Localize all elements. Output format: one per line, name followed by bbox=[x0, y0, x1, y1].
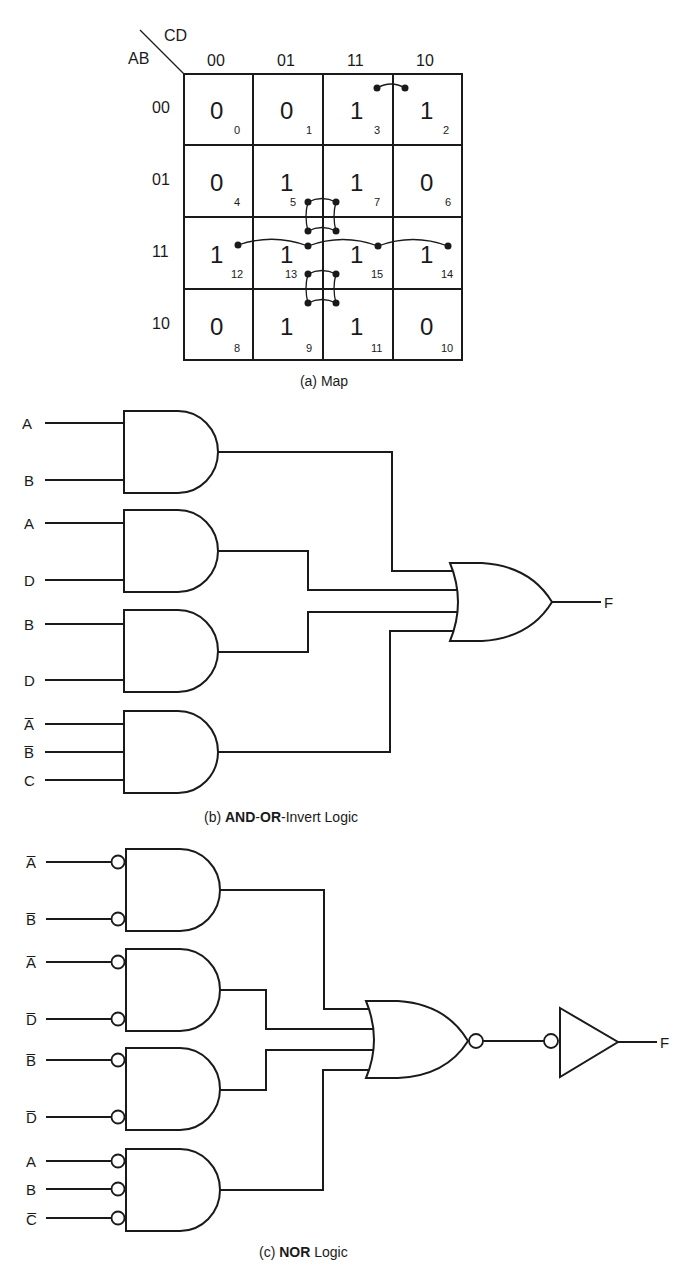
map-caption: (a) Map bbox=[300, 373, 348, 389]
input-label: C̅ bbox=[26, 1211, 37, 1228]
minterm-index: 9 bbox=[306, 342, 312, 354]
input-label: A bbox=[22, 415, 32, 432]
cell-value: 1 bbox=[420, 97, 433, 124]
inversion-bubble bbox=[112, 1054, 125, 1067]
row-header: 01 bbox=[152, 171, 170, 188]
input-label: B̅ bbox=[26, 1052, 36, 1069]
nand-style-gate-2: A̅ D̅ bbox=[26, 949, 220, 1031]
inversion-bubble bbox=[112, 1212, 125, 1225]
karnaugh-map: CD AB 00 01 11 10 00 01 11 10 0 0 0 1 1 … bbox=[128, 27, 462, 389]
nand-style-gate-1: A̅ B̅ bbox=[26, 849, 220, 931]
col-header: 10 bbox=[416, 52, 434, 69]
input-label: D bbox=[24, 672, 35, 689]
and-gate-4: A̅ B̅ C bbox=[24, 711, 218, 793]
and-or-circuit: A B A D B D A̅ B̅ C bbox=[22, 411, 613, 825]
output-label: F bbox=[604, 594, 613, 611]
and-or-caption: (b) AND-OR-Invert Logic bbox=[204, 809, 358, 825]
minterm-index: 12 bbox=[231, 268, 243, 280]
inversion-bubble bbox=[112, 1183, 125, 1196]
cell-value: 0 bbox=[280, 97, 293, 124]
input-label: B bbox=[24, 472, 34, 489]
inverter-input-bubble bbox=[544, 1034, 558, 1048]
and-gate-2: A D bbox=[24, 510, 218, 592]
inversion-bubble bbox=[112, 856, 125, 869]
cell-value: 1 bbox=[280, 241, 293, 268]
minterm-index: 4 bbox=[234, 196, 240, 208]
cell-value: 0 bbox=[210, 169, 223, 196]
cell-value: 0 bbox=[210, 313, 223, 340]
input-label: D̅ bbox=[26, 1109, 37, 1126]
minterm-index: 3 bbox=[374, 124, 380, 136]
minterm-index: 14 bbox=[441, 268, 453, 280]
and-gate-3: B D bbox=[24, 610, 218, 692]
input-label: A̅ bbox=[26, 854, 36, 871]
row-header: 11 bbox=[152, 243, 169, 260]
or-gate bbox=[450, 563, 552, 641]
minterm-index: 11 bbox=[371, 342, 382, 354]
row-header: 10 bbox=[152, 315, 170, 332]
col-header: 00 bbox=[207, 52, 225, 69]
nor-output-bubble bbox=[469, 1034, 483, 1048]
input-label: B̅ bbox=[26, 911, 36, 928]
inversion-bubble bbox=[112, 1155, 125, 1168]
cell-value: 1 bbox=[280, 313, 293, 340]
cell-value: 1 bbox=[210, 241, 223, 268]
minterm-index: 5 bbox=[290, 196, 296, 208]
minterm-index: 2 bbox=[443, 124, 449, 136]
inversion-bubble bbox=[112, 1111, 125, 1124]
nor-caption: (c) NOR Logic bbox=[259, 1244, 348, 1260]
nor-gate bbox=[366, 1001, 468, 1078]
nor-circuit: A̅ B̅ A̅ D̅ B̅ D̅ bbox=[26, 849, 669, 1260]
row-header: 00 bbox=[152, 99, 170, 116]
nand-style-gate-3: B̅ D̅ bbox=[26, 1048, 220, 1130]
input-label: A̅ bbox=[24, 716, 34, 733]
input-label: A̅ bbox=[26, 954, 36, 971]
minterm-index: 1 bbox=[306, 124, 312, 136]
row-variable-label: AB bbox=[128, 50, 149, 67]
minterm-index: 7 bbox=[374, 196, 380, 208]
input-label: D̅ bbox=[26, 1011, 37, 1028]
grouping-links bbox=[235, 84, 452, 307]
cell-value: 0 bbox=[420, 313, 433, 340]
inversion-bubble bbox=[112, 1013, 125, 1026]
input-label: A bbox=[24, 515, 34, 532]
cell-value: 1 bbox=[350, 241, 363, 268]
input-label: A bbox=[26, 1153, 36, 1170]
col-variable-label: CD bbox=[164, 27, 187, 44]
inversion-bubble bbox=[112, 913, 125, 926]
col-header: 11 bbox=[347, 52, 364, 69]
cell-value: 1 bbox=[420, 241, 433, 268]
input-label: B bbox=[26, 1181, 36, 1198]
logic-figure: CD AB 00 01 11 10 00 01 11 10 0 0 0 1 1 … bbox=[0, 0, 679, 1263]
cell-value: 0 bbox=[420, 169, 433, 196]
nand-style-gate-4: A B C̅ bbox=[26, 1149, 220, 1231]
minterm-index: 13 bbox=[285, 268, 297, 280]
cell-value: 1 bbox=[280, 169, 293, 196]
inversion-bubble bbox=[112, 956, 125, 969]
cell-value: 1 bbox=[350, 169, 363, 196]
cell-value: 0 bbox=[210, 97, 223, 124]
input-label: B bbox=[24, 616, 34, 633]
minterm-index: 6 bbox=[445, 196, 451, 208]
inverter-buffer bbox=[560, 1008, 618, 1077]
minterm-index: 0 bbox=[234, 124, 240, 136]
minterm-index: 10 bbox=[441, 342, 453, 354]
cell-value: 1 bbox=[350, 313, 363, 340]
minterm-index: 8 bbox=[234, 342, 240, 354]
cell-value: 1 bbox=[350, 97, 363, 124]
input-label: C bbox=[24, 772, 35, 789]
and-gate-1: A B bbox=[22, 411, 218, 493]
output-label: F bbox=[660, 1034, 669, 1051]
minterm-index: 15 bbox=[371, 268, 383, 280]
col-header: 01 bbox=[277, 52, 295, 69]
input-label: B̅ bbox=[24, 744, 34, 761]
input-label: D bbox=[24, 572, 35, 589]
